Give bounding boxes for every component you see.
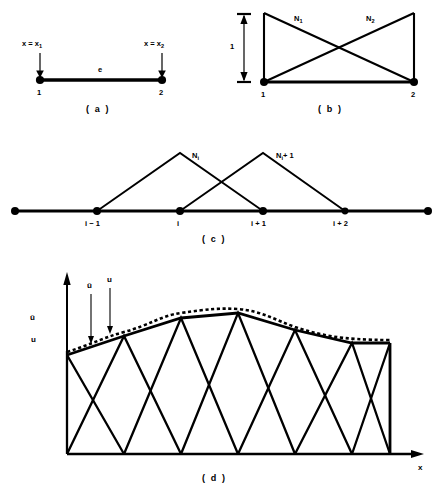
basis-hat-5 xyxy=(238,330,352,454)
mesh-node-ip2 xyxy=(342,208,349,215)
panel-a-drawing xyxy=(0,0,210,120)
panel-c: Ni Ni+ 1 i − 1 i i + 1 i + 2 ( c ) xyxy=(0,126,441,250)
dimension-arrowhead-bottom xyxy=(240,72,247,82)
x-axis-label: x xyxy=(418,464,422,472)
node-label-2: 2 xyxy=(411,91,415,99)
shape-function-n2-label: N2 xyxy=(366,15,375,23)
node-dot-2 xyxy=(410,78,418,86)
caption-a: ( a ) xyxy=(86,104,110,114)
node-label-1: 1 xyxy=(37,89,41,97)
dimension-label: 1 xyxy=(230,43,234,51)
coord-label-1: x = x1 xyxy=(22,40,42,48)
basis-hat-4 xyxy=(181,313,295,454)
annotation-arrow-uhat-head xyxy=(88,336,94,344)
mesh-node-label-im1: i − 1 xyxy=(85,220,100,228)
panel-d-drawing xyxy=(0,258,441,493)
caption-d: ( d ) xyxy=(202,473,227,483)
basis-hat-2 xyxy=(67,336,181,454)
mesh-endpoint-right xyxy=(424,207,432,215)
coord-arrow-2-head xyxy=(158,71,166,79)
node-dot-1 xyxy=(260,78,268,86)
hat-function-ni1-label: Ni+ 1 xyxy=(276,152,294,160)
mesh-node-im1 xyxy=(93,207,101,215)
panel-b: 1 N1 N2 1 2 ( b ) xyxy=(218,0,441,120)
panel-b-drawing xyxy=(218,0,441,120)
annotation-label-uhat: û xyxy=(87,282,92,290)
basis-hat-3 xyxy=(124,318,238,454)
x-axis-arrowhead xyxy=(411,450,424,458)
annotation-arrow-u-head xyxy=(107,326,113,334)
node-label-1: 1 xyxy=(261,91,265,99)
coord-arrow-1-head xyxy=(36,71,44,79)
element-label: e xyxy=(98,66,102,74)
y-axis-arrowhead xyxy=(63,272,70,285)
mesh-node-i xyxy=(176,207,184,215)
hat-function-ni-label: Ni xyxy=(192,152,199,160)
y-axis-label-uhat: û xyxy=(30,314,35,322)
caption-b: ( b ) xyxy=(318,104,343,114)
basis-hat-1 xyxy=(67,355,124,454)
annotation-label-u: u xyxy=(107,276,112,284)
panel-a: x = x1 x = x2 e 1 2 ( a ) xyxy=(0,0,210,120)
y-axis-label-u: u xyxy=(31,336,36,344)
mesh-node-ip1 xyxy=(259,207,267,215)
dimension-arrowhead-top xyxy=(240,15,247,25)
shape-function-n1-label: N1 xyxy=(294,15,303,23)
caption-c: ( c ) xyxy=(202,234,226,244)
coord-label-2: x = x2 xyxy=(144,40,164,48)
node-label-2: 2 xyxy=(159,89,163,97)
panel-c-drawing xyxy=(0,126,441,250)
figure-root: x = x1 x = x2 e 1 2 ( a ) xyxy=(0,0,441,493)
mesh-node-label-ip1: i + 1 xyxy=(251,220,266,228)
panel-d: û u û u x ( d ) xyxy=(0,258,441,493)
hat-function-ni xyxy=(97,153,263,211)
mesh-node-label-ip2: i + 2 xyxy=(333,220,348,228)
mesh-endpoint-left xyxy=(11,207,19,215)
hat-function-ni1 xyxy=(180,153,345,211)
mesh-node-label-i: i xyxy=(177,220,179,228)
